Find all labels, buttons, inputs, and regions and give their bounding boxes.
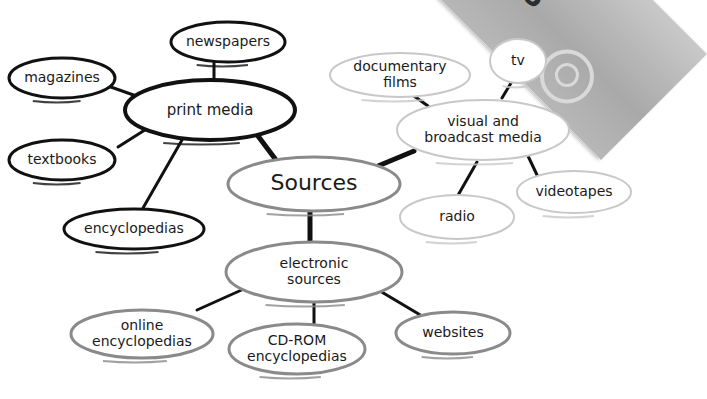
node-label: sources — [287, 271, 341, 287]
node-magazines: magazines — [9, 58, 115, 103]
node-textbooks: textbooks — [9, 140, 115, 185]
node-shadow-stroke — [436, 163, 513, 165]
node-shadow-stroke — [197, 65, 248, 67]
node-radio: radio — [400, 195, 514, 244]
node-shadow-stroke — [422, 357, 473, 359]
node-label: magazines — [24, 69, 100, 85]
edge-sources-to-print-media — [258, 136, 276, 160]
node-cd-rom-encyclopedias: CD-ROMencyclopedias — [229, 324, 365, 379]
node-documentary-films: documentaryfilms — [330, 53, 470, 102]
node-label: online — [121, 317, 164, 333]
node-shadow-stroke — [426, 242, 477, 244]
node-shadow-stroke — [503, 86, 528, 88]
node-encyclopedias: encyclopedias — [64, 209, 204, 254]
node-label: textbooks — [27, 151, 96, 167]
node-label: Sources — [270, 170, 357, 195]
node-visual-broadcast-media: visual andbroadcast media — [397, 100, 569, 165]
nodes-layer: Sourcesprint medianewspapersmagazinestex… — [9, 22, 631, 379]
node-label: newspapers — [186, 33, 270, 49]
node-sources: Sources — [228, 157, 400, 216]
node-shadow-stroke — [96, 252, 159, 254]
node-print-media: print media — [125, 80, 295, 145]
node-label: tv — [511, 52, 525, 68]
node-shadow-stroke — [33, 101, 81, 103]
node-newspapers: newspapers — [171, 22, 285, 67]
node-shadow-stroke — [266, 305, 345, 307]
node-websites: websites — [396, 312, 510, 359]
node-electronic-sources: electronicsources — [226, 242, 402, 307]
node-label: videotapes — [535, 183, 612, 199]
node-tv: tv — [490, 39, 546, 88]
edge-sources-to-visual-broadcast-media — [378, 151, 414, 166]
node-label: print media — [167, 101, 254, 119]
node-shadow-stroke — [103, 361, 167, 363]
node-label: CD-ROM — [268, 332, 326, 348]
edge-visual-broadcast-media-to-videotapes — [528, 156, 538, 177]
node-shadow-stroke — [543, 216, 594, 218]
node-shadow-stroke — [362, 100, 425, 102]
node-shadow-stroke — [260, 377, 321, 379]
node-label: radio — [439, 208, 475, 224]
node-shadow-stroke — [33, 183, 81, 185]
edge-visual-broadcast-media-to-radio — [457, 162, 477, 197]
node-shadow-stroke — [267, 214, 344, 216]
node-label: broadcast media — [424, 129, 541, 145]
node-label: websites — [422, 324, 484, 340]
node-label: electronic — [280, 255, 349, 271]
edge-print-media-to-encyclopedias — [143, 140, 182, 208]
node-videotapes: videotapes — [517, 171, 631, 218]
node-shadow-stroke — [163, 143, 240, 145]
node-label: encyclopedias — [84, 220, 184, 236]
node-label: visual and — [447, 113, 519, 129]
edge-electronic-sources-to-websites — [380, 291, 422, 316]
node-online-encyclopedias: onlineencyclopedias — [71, 310, 213, 363]
node-label: encyclopedias — [92, 333, 192, 349]
node-label: films — [383, 74, 417, 90]
edge-electronic-sources-to-online-encyclopedias — [197, 288, 246, 310]
node-label: documentary — [353, 58, 446, 74]
node-label: encyclopedias — [247, 348, 347, 364]
